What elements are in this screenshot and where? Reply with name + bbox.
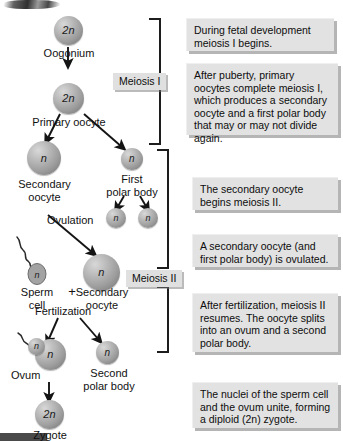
cell-ovum-label: Ovum [11,369,63,382]
cell-secondary-oocyte-ovulated-ploidy: n [98,267,104,278]
cell-first-polar-body-label: First polar body [94,173,170,198]
cell-second-polar-body-ploidy: n [105,348,111,358]
cell-second-polar-body: n [96,341,119,364]
cell-oogonium-label: Oogonium [23,47,115,60]
bracket-meiosis-2b [158,287,168,352]
stage-label-meiosis-1: Meiosis I [113,73,166,90]
cell-primary-oocyte-ploidy: 2n [62,93,75,104]
cell-first-polar-body-ploidy: n [129,154,135,164]
cell-sperm-nucleus-ploidy: n [34,342,39,351]
cell-zygote: 2n [35,400,64,429]
cell-primary-oocyte: 2n [53,83,84,114]
callout-6: The nuclei of the sperm cell and the ovu… [192,382,338,428]
sperm-ploidy-label: n [34,270,39,280]
cell-oogonium: 2n [54,16,83,45]
cell-sperm-nucleus-in-ovum: n [28,338,45,355]
callout-2: After puberty, primary oocytes complete … [186,63,338,135]
cell-secondary-oocyte-ploidy: n [41,153,47,164]
stage-label-meiosis-2: Meiosis II [126,270,182,287]
cell-polar-body-daughter-right: n [138,208,158,228]
cell-primary-oocyte-label: Primary oocyte [9,116,129,129]
cell-oogonium-ploidy: 2n [62,25,75,36]
arrow-fertilization-to-ovum [48,318,58,341]
arrow-fertilization-to-second-polar-body [80,318,99,340]
cell-zygote-ploidy: 2n [43,409,56,420]
bracket-meiosis-2a [158,150,168,268]
sperm-head-icon [28,264,46,285]
process-label-ovulation: Ovulation [47,214,119,227]
cell-second-polar-body-label: Second polar body [71,367,147,392]
cell-secondary-oocyte: n [27,141,61,175]
callout-4: A secondary oocyte (and first polar body… [192,234,338,267]
process-label-fertilization: Fertilization [35,305,117,318]
cell-first-polar-body: n [121,148,143,170]
cell-ovum-ploidy: n [47,349,53,360]
cell-polar-body-daughter-right-ploidy: n [145,214,150,223]
diagram-canvas: n 2n Oogonium 2n Primary oocyte n Second… [0,0,343,441]
callout-3: The secondary oocyte begins meiosis II. [192,177,338,210]
scan-artifact-top [4,0,60,9]
callout-5: After fertilization, meiosis II resumes.… [192,293,338,352]
cell-secondary-oocyte-label: Secondary oocyte [0,178,89,203]
callout-1: During fetal development meiosis I begin… [186,18,334,51]
sperm-tail-icon [17,237,32,269]
cell-zygote-label: Zygote [12,429,88,441]
